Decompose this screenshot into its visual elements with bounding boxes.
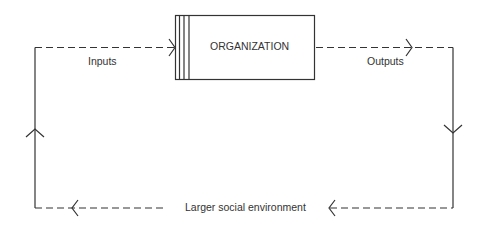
outputs-label: Outputs bbox=[367, 55, 404, 67]
inputs-label: Inputs bbox=[88, 55, 117, 67]
environment-label: Larger social environment bbox=[185, 201, 306, 213]
organization-label: ORGANIZATION bbox=[210, 40, 289, 52]
